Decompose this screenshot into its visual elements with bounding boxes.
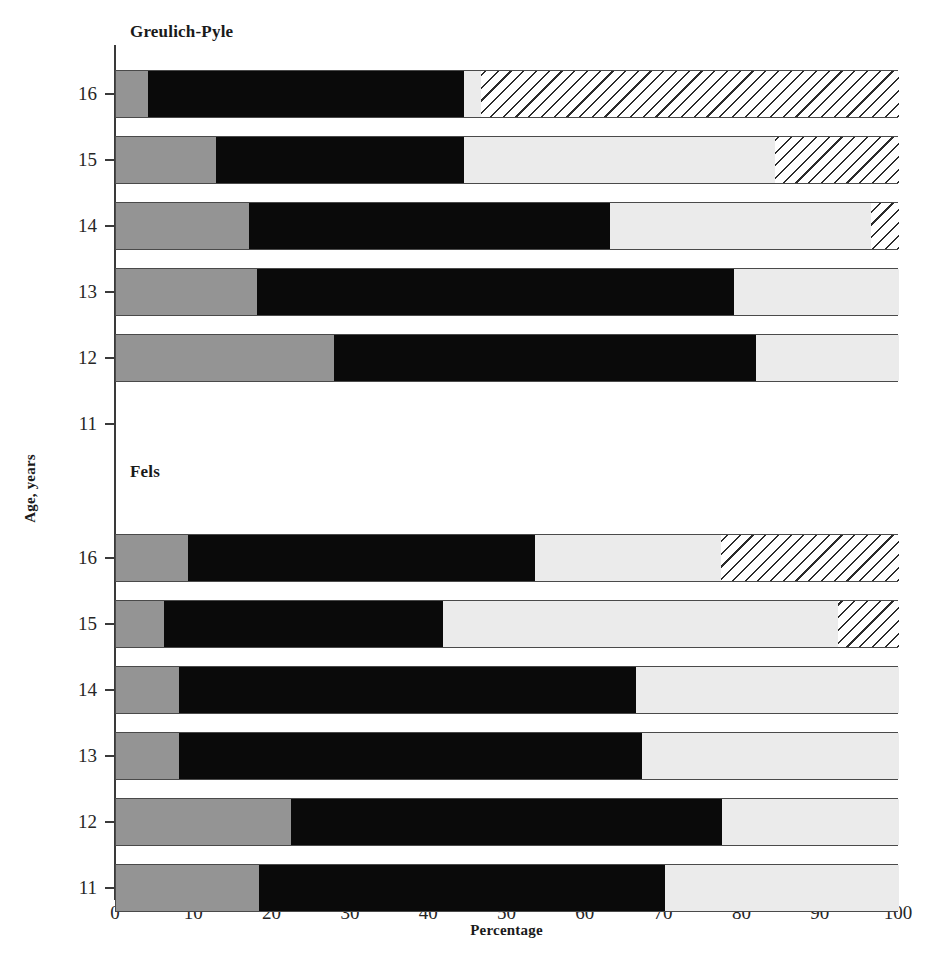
segment-solid-gray bbox=[116, 601, 164, 647]
segment-light-gray bbox=[464, 137, 776, 183]
y-tick-Greulich-Pyle-12 bbox=[105, 357, 115, 359]
bar-row bbox=[115, 202, 898, 250]
segment-solid-gray bbox=[116, 269, 257, 315]
segment-solid-gray bbox=[116, 667, 179, 713]
segment-light-gray bbox=[734, 269, 899, 315]
y-tick-label-Greulich-Pyle-14: 14 bbox=[57, 215, 97, 237]
segment-solid-black bbox=[257, 269, 734, 315]
plot-area: 0102030405060708090100 16151413121116151… bbox=[115, 45, 898, 890]
segment-solid-black bbox=[148, 71, 464, 117]
segment-light-gray bbox=[722, 799, 899, 845]
segment-solid-black bbox=[188, 535, 535, 581]
segment-solid-gray bbox=[116, 535, 188, 581]
y-tick-label-Greulich-Pyle-13: 13 bbox=[57, 281, 97, 303]
panel-heading-greulich-pyle: Greulich-Pyle bbox=[130, 22, 233, 42]
bar-row bbox=[115, 136, 898, 184]
y-tick-Fels-12 bbox=[105, 821, 115, 823]
y-tick-label-Fels-11: 11 bbox=[57, 877, 97, 899]
segment-light-gray bbox=[756, 335, 899, 381]
y-tick-Greulich-Pyle-16 bbox=[105, 93, 115, 95]
bar-row bbox=[115, 334, 898, 382]
segment-solid-black bbox=[334, 335, 756, 381]
segment-solid-black bbox=[179, 733, 643, 779]
bar-row bbox=[115, 268, 898, 316]
segment-light-gray bbox=[610, 203, 871, 249]
y-tick-label-Fels-14: 14 bbox=[57, 679, 97, 701]
segment-hatched bbox=[775, 137, 899, 183]
bar-row bbox=[115, 70, 898, 118]
segment-solid-gray bbox=[116, 865, 259, 911]
y-tick-label-Greulich-Pyle-15: 15 bbox=[57, 149, 97, 171]
segment-hatched bbox=[481, 71, 899, 117]
y-tick-label-Greulich-Pyle-11: 11 bbox=[57, 413, 97, 435]
segment-solid-black bbox=[259, 865, 665, 911]
segment-light-gray bbox=[443, 601, 838, 647]
x-axis-title: Percentage bbox=[115, 922, 898, 939]
bar-row bbox=[115, 798, 898, 846]
y-tick-label-Fels-15: 15 bbox=[57, 613, 97, 635]
y-tick-Fels-11 bbox=[105, 887, 115, 889]
bar-row bbox=[115, 666, 898, 714]
segment-solid-gray bbox=[116, 799, 291, 845]
bar-row bbox=[115, 600, 898, 648]
segment-solid-black bbox=[164, 601, 444, 647]
y-tick-Greulich-Pyle-11 bbox=[105, 423, 115, 425]
y-axis-title: Age, years bbox=[22, 399, 39, 579]
y-tick-label-Fels-16: 16 bbox=[57, 547, 97, 569]
bar-row bbox=[115, 864, 898, 912]
y-tick-Greulich-Pyle-15 bbox=[105, 159, 115, 161]
y-tick-label-Greulich-Pyle-16: 16 bbox=[57, 83, 97, 105]
y-tick-Greulich-Pyle-14 bbox=[105, 225, 115, 227]
chart-figure: Age, years Greulich-Pyle Fels 0102030405… bbox=[0, 0, 929, 974]
segment-light-gray bbox=[636, 667, 899, 713]
segment-hatched bbox=[871, 203, 899, 249]
segment-light-gray bbox=[642, 733, 899, 779]
segment-light-gray bbox=[665, 865, 899, 911]
segment-solid-black bbox=[291, 799, 722, 845]
segment-solid-gray bbox=[116, 137, 216, 183]
segment-solid-black bbox=[216, 137, 463, 183]
bar-row bbox=[115, 732, 898, 780]
segment-solid-gray bbox=[116, 203, 249, 249]
y-tick-Fels-15 bbox=[105, 623, 115, 625]
y-tick-label-Fels-12: 12 bbox=[57, 811, 97, 833]
y-tick-Fels-14 bbox=[105, 689, 115, 691]
segment-hatched bbox=[838, 601, 899, 647]
bar-row bbox=[115, 534, 898, 582]
segment-solid-gray bbox=[116, 335, 334, 381]
segment-solid-gray bbox=[116, 71, 148, 117]
y-tick-Fels-13 bbox=[105, 755, 115, 757]
y-tick-Greulich-Pyle-13 bbox=[105, 291, 115, 293]
segment-solid-black bbox=[179, 667, 636, 713]
y-tick-label-Greulich-Pyle-12: 12 bbox=[57, 347, 97, 369]
segment-solid-gray bbox=[116, 733, 179, 779]
segment-hatched bbox=[721, 535, 899, 581]
segment-light-gray bbox=[535, 535, 721, 581]
y-tick-label-Fels-13: 13 bbox=[57, 745, 97, 767]
segment-light-gray bbox=[464, 71, 481, 117]
segment-solid-black bbox=[249, 203, 610, 249]
y-tick-Fels-16 bbox=[105, 557, 115, 559]
